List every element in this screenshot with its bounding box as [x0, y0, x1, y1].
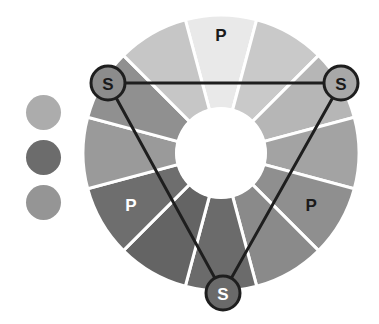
legend-swatch-light	[26, 95, 61, 130]
secondary-label: S	[102, 75, 113, 94]
legend-swatch-medium	[26, 185, 61, 220]
secondary-label: S	[335, 75, 346, 94]
primary-label: P	[305, 196, 316, 215]
legend-swatch-dark	[26, 140, 61, 175]
wheel-center-hole	[175, 107, 267, 199]
secondary-label: S	[217, 285, 228, 304]
primary-label: P	[125, 196, 136, 215]
primary-label: P	[215, 26, 226, 45]
